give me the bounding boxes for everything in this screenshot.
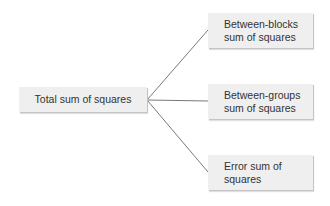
between-groups-node: Between-groups sum of squares: [208, 84, 313, 119]
connector-root-to-error: [147, 100, 208, 172]
node-label: Total sum of squares: [35, 93, 132, 106]
node-label-line-1: Between-blocks: [224, 18, 313, 31]
node-label-line-1: Error sum of: [224, 160, 313, 173]
connector-root-to-between-blocks: [147, 30, 208, 100]
node-label-line-2: squares: [224, 173, 313, 186]
connector-root-to-between-groups: [147, 100, 208, 101]
between-blocks-node: Between-blocks sum of squares: [208, 13, 313, 48]
node-label-line-2: sum of squares: [224, 102, 313, 115]
node-label-line-1: Between-groups: [224, 89, 313, 102]
total-sum-of-squares-node: Total sum of squares: [19, 87, 147, 112]
node-label-line-2: sum of squares: [224, 31, 313, 44]
sum-of-squares-diagram: Total sum of squares Between-blocks sum …: [0, 0, 330, 206]
error-sum-of-squares-node: Error sum of squares: [208, 155, 313, 190]
